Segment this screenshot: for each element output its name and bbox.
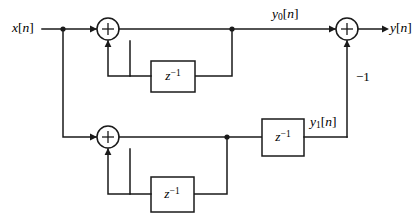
label-output-signal: y[n] [390,21,412,35]
wire-delay-1-output-up [108,41,130,76]
label-input-signal: x[n] [12,21,34,35]
label-y0-text: y0 [272,6,283,21]
arrowhead-adder-bottom-input [90,134,97,141]
wire-delay-3-to-adder-bottom [130,149,151,194]
wire-delay-1-to-adder-top [130,41,151,76]
arrowhead-adder-output-input [329,26,336,33]
arrowhead-adder-output-gain [344,40,351,47]
arrowhead-adder-top-input [90,26,97,33]
delay-block-3-label: z−1 [164,187,179,201]
signal-flow-diagram: x[n] y0[n] y[n] y1[n] −1 z−1 z−1 z−1 [0,0,420,219]
wire-delay-3-output-up [108,149,130,194]
delay-3-exponent: −1 [170,186,180,196]
delay-1-exponent: −1 [171,68,181,78]
wire-branch-bottom-to-delay-3-input [194,137,227,194]
arrowhead-adder-top-feedback [105,40,112,47]
label-y1-signal: y1[n] [310,115,337,131]
label-gain-minus-one: −1 [356,70,370,83]
label-y0-index: n [287,6,294,21]
label-y1-index: n [325,114,332,129]
arrowhead-output-y [382,26,389,33]
delay-block-2-label: z−1 [275,130,290,144]
diagram-canvas [0,0,420,219]
label-y0-signal: y0[n] [272,7,299,23]
delay-2-exponent: −1 [281,129,291,139]
wire-input-branch-to-adder-bottom [63,29,97,137]
delay-block-1-label: z−1 [165,69,180,83]
wire-branch-to-delay-1-input [195,29,232,76]
arrowhead-adder-bottom-feedback [105,148,112,155]
label-y1-text: y1 [310,114,321,129]
